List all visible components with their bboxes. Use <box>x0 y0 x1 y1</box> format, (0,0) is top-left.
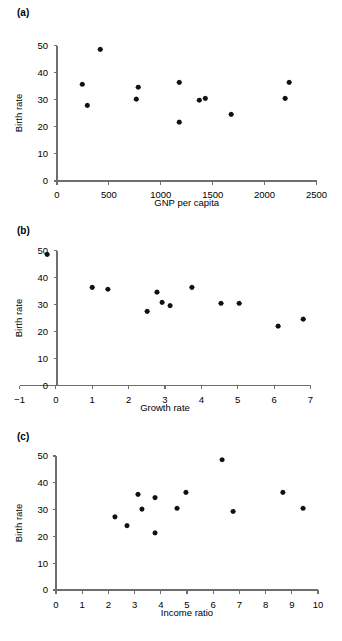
data-point <box>229 112 234 117</box>
x-tick-label: 8 <box>263 599 268 610</box>
data-point <box>203 96 208 101</box>
data-point <box>134 97 139 102</box>
data-point <box>98 47 103 52</box>
y-tick-label: 40 <box>37 272 48 283</box>
x-tick-label: 7 <box>237 599 242 610</box>
y-tick-label: 20 <box>37 121 48 132</box>
data-point <box>139 506 144 511</box>
panel-c-plot: 01020304050012345678910Income ratioBirth… <box>0 425 342 641</box>
y-tick-label: 10 <box>37 558 48 569</box>
y-tick-label: 30 <box>37 94 48 105</box>
x-tick-label: 2 <box>126 394 131 405</box>
x-tick-label: 4 <box>199 394 204 405</box>
data-point <box>177 80 182 85</box>
data-point <box>152 530 157 535</box>
panel-c: (c) 01020304050012345678910Income ratioB… <box>0 425 342 641</box>
y-axis-title: Birth rate <box>13 504 24 543</box>
x-tick-label: 2000 <box>254 189 275 200</box>
y-tick-label: 30 <box>37 504 48 515</box>
data-point <box>237 301 242 306</box>
x-axis-title: Income ratio <box>161 607 213 618</box>
y-tick-label: 20 <box>37 531 48 542</box>
data-point <box>167 303 172 308</box>
x-tick-label: 2500 <box>306 189 327 200</box>
y-tick-label: 10 <box>37 148 48 159</box>
y-tick-label: 30 <box>37 299 48 310</box>
data-point <box>90 285 95 290</box>
panel-b: (b) 01020304050−101234567Growth rateBirt… <box>0 215 342 425</box>
x-tick-label: 7 <box>308 394 313 405</box>
y-tick-label: 20 <box>37 326 48 337</box>
data-point <box>189 285 194 290</box>
data-point <box>152 495 157 500</box>
data-point <box>80 82 85 87</box>
x-tick-label: 3 <box>132 599 137 610</box>
y-tick-label: 50 <box>37 40 48 51</box>
data-point <box>300 506 305 511</box>
data-point <box>183 490 188 495</box>
data-point <box>136 85 141 90</box>
x-tick-label: 2 <box>106 599 111 610</box>
data-point <box>197 98 202 103</box>
y-axis-title: Birth rate <box>13 299 24 338</box>
x-tick-label: 10 <box>313 599 324 610</box>
data-point <box>276 324 281 329</box>
data-point <box>159 300 164 305</box>
y-axis-title: Birth rate <box>13 94 24 133</box>
x-axis-title: Growth rate <box>140 402 190 413</box>
x-tick-label: −1 <box>14 394 25 405</box>
data-point <box>301 317 306 322</box>
x-tick-label: 1 <box>90 394 95 405</box>
x-tick-label: 1 <box>80 599 85 610</box>
x-tick-label: 0 <box>54 189 59 200</box>
x-tick-label: 0 <box>53 599 58 610</box>
y-tick-label: 40 <box>37 477 48 488</box>
x-tick-label: 5 <box>235 394 240 405</box>
data-point <box>231 509 236 514</box>
figure-scatter-panels: (a) 0102030405005001000150020002500GNP p… <box>0 0 342 641</box>
data-point <box>280 490 285 495</box>
data-point <box>154 290 159 295</box>
y-tick-label: 0 <box>43 175 48 186</box>
y-tick-label: 0 <box>43 584 48 595</box>
y-tick-label: 0 <box>43 380 48 391</box>
y-tick-label: 10 <box>37 353 48 364</box>
data-point <box>283 96 288 101</box>
data-point <box>85 103 90 108</box>
panel-a-plot: 0102030405005001000150020002500GNP per c… <box>0 0 342 215</box>
x-tick-label: 9 <box>289 599 294 610</box>
panel-b-plot: 01020304050−101234567Growth rateBirth ra… <box>0 215 342 425</box>
y-tick-label: 40 <box>37 67 48 78</box>
x-tick-label: 0 <box>53 394 58 405</box>
data-point <box>124 523 129 528</box>
panel-a: (a) 0102030405005001000150020002500GNP p… <box>0 0 342 215</box>
x-tick-label: 6 <box>271 394 276 405</box>
data-point <box>287 80 292 85</box>
data-point <box>220 457 225 462</box>
data-point <box>45 252 50 257</box>
data-point <box>218 301 223 306</box>
data-point <box>145 309 150 314</box>
data-point <box>135 492 140 497</box>
x-axis-title: GNP per capita <box>154 197 219 208</box>
data-point <box>174 506 179 511</box>
y-tick-label: 50 <box>37 450 48 461</box>
x-tick-label: 500 <box>101 189 117 200</box>
data-point <box>112 514 117 519</box>
data-point <box>177 120 182 125</box>
data-point <box>105 287 110 292</box>
